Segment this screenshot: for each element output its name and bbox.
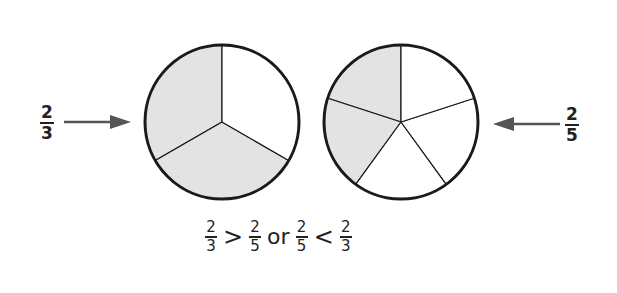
- thirds-circle: [145, 45, 299, 199]
- fraction-two-fifths: 2 5: [249, 220, 261, 254]
- arrow-right-icon: [64, 115, 131, 129]
- fraction-two-fifths: 2 5: [296, 220, 308, 254]
- fraction-two-thirds: 2 3: [205, 220, 217, 254]
- fifths-circle: [324, 45, 478, 199]
- numerator: 2: [341, 220, 351, 235]
- denominator: 5: [297, 239, 307, 254]
- greater-than-sign: >: [223, 223, 243, 251]
- numerator: 2: [41, 104, 53, 121]
- numerator: 2: [206, 220, 216, 235]
- arrow-left-icon: [493, 117, 560, 131]
- right-fraction-label: 2 5: [565, 106, 579, 144]
- denominator: 5: [250, 239, 260, 254]
- denominator: 3: [341, 239, 351, 254]
- fraction-two-thirds: 2 3: [340, 220, 352, 254]
- or-word: or: [267, 224, 290, 249]
- numerator: 2: [250, 220, 260, 235]
- denominator: 3: [41, 125, 53, 142]
- left-fraction-label: 2 3: [40, 104, 54, 142]
- denominator: 5: [566, 127, 578, 144]
- numerator: 2: [566, 106, 578, 123]
- numerator: 2: [297, 220, 307, 235]
- less-than-sign: <: [314, 223, 334, 251]
- denominator: 3: [206, 239, 216, 254]
- comparison-statement: 2 3 > 2 5 or 2 5 < 2 3: [205, 220, 352, 254]
